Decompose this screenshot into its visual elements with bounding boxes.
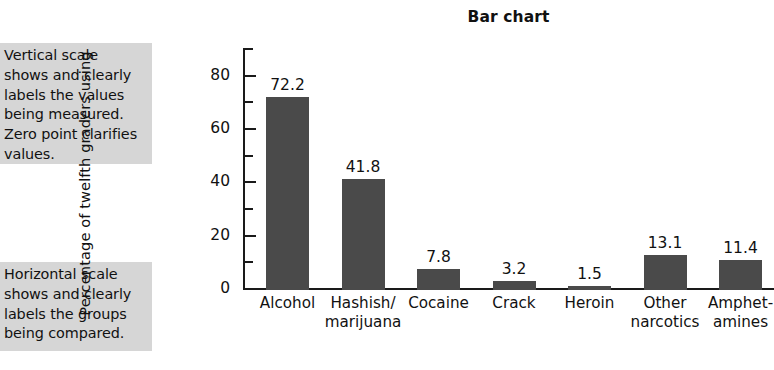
bar: 3.2 — [493, 281, 536, 290]
y-tick-minor — [245, 101, 253, 103]
bar: 41.8 — [342, 179, 385, 290]
bar: 7.8 — [417, 269, 460, 290]
bar: 1.5 — [568, 286, 611, 290]
y-tick-major: 80 — [245, 75, 256, 77]
y-axis-line — [243, 48, 245, 290]
category-label: Heroin — [565, 294, 615, 313]
y-axis-title: Percentage of twelfth graders using — [76, 34, 93, 334]
y-tick-label: 80 — [210, 66, 230, 84]
category-label: Other narcotics — [631, 294, 700, 332]
y-tick-major: 20 — [245, 235, 256, 237]
y-tick-minor — [245, 155, 253, 157]
y-tick-major: 40 — [245, 181, 256, 183]
bar-value-label: 7.8 — [426, 248, 451, 266]
y-tick-minor — [245, 261, 253, 263]
bar: 13.1 — [644, 255, 687, 290]
bar-value-label: 41.8 — [346, 158, 381, 176]
y-tick-major: 60 — [245, 128, 256, 130]
y-tick-major: 0 — [245, 288, 256, 290]
y-tick-minor — [245, 208, 253, 210]
bar: 72.2 — [266, 97, 309, 290]
chart-title: Bar chart — [243, 8, 774, 26]
y-tick-label: 40 — [210, 172, 230, 190]
category-label: Cocaine — [408, 294, 469, 313]
category-label: Crack — [492, 294, 535, 313]
bar-value-label: 13.1 — [648, 234, 683, 252]
category-label: Alcohol — [260, 294, 315, 313]
bar-value-label: 3.2 — [502, 260, 527, 278]
bar-value-label: 72.2 — [270, 76, 305, 94]
y-tick-minor — [245, 48, 253, 50]
bar-value-label: 1.5 — [577, 265, 602, 283]
bar-value-label: 11.4 — [723, 239, 758, 257]
y-tick-label: 60 — [210, 119, 230, 137]
bar: 11.4 — [719, 260, 762, 290]
category-label: Amphet- amines — [708, 294, 773, 332]
category-label: Hashish/ marijuana — [325, 294, 402, 332]
y-tick-label: 20 — [210, 226, 230, 244]
plot-area: 020406080 72.241.87.83.21.513.111.4 Alco… — [243, 48, 774, 290]
y-tick-label: 0 — [220, 279, 230, 297]
